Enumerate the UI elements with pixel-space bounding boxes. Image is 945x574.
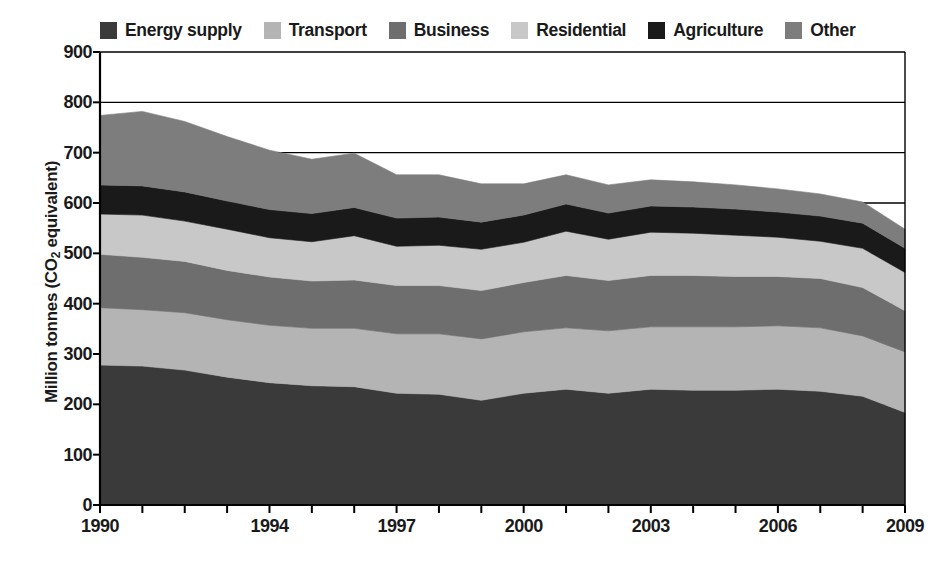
stacked-areas (100, 111, 905, 505)
x-axis-ticks (100, 505, 905, 513)
plot-area (0, 0, 945, 574)
emissions-area-chart: Energy supplyTransportBusinessResidentia… (0, 0, 945, 574)
